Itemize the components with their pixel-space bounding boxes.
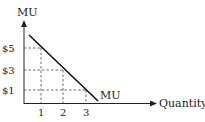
curve-label: MU xyxy=(100,89,121,102)
y-tick-1: $1 xyxy=(2,85,15,96)
x-axis-arrow-icon xyxy=(150,101,157,107)
x-tick-3: 3 xyxy=(83,107,89,118)
y-tick-3: $3 xyxy=(2,65,15,76)
y-axis-arrow-icon xyxy=(21,20,27,27)
x-tick-1: 1 xyxy=(38,107,44,118)
mu-curve xyxy=(29,35,98,101)
mu-chart: MU Quantity MU $5 $3 $1 1 2 3 xyxy=(0,0,205,122)
x-tick-2: 2 xyxy=(60,107,66,118)
x-axis-label: Quantity xyxy=(159,97,205,110)
y-axis-label: MU xyxy=(17,6,38,19)
y-tick-5: $5 xyxy=(2,43,15,54)
guide-lines xyxy=(24,48,86,103)
